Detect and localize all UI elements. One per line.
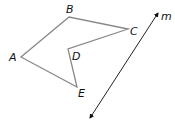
label-B: B — [66, 3, 74, 16]
label-C: C — [130, 25, 138, 38]
label-A: A — [8, 51, 17, 64]
geometry-diagram: A B C D E m — [0, 0, 175, 130]
label-m: m — [161, 10, 172, 23]
label-E: E — [78, 87, 85, 100]
label-D: D — [72, 50, 80, 63]
